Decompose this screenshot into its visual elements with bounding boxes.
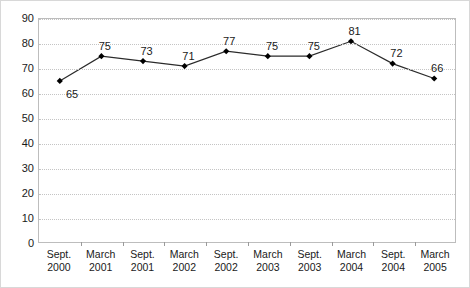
x-axis-tick-label: March 2001 [80, 248, 122, 274]
gridline [39, 119, 455, 120]
x-axis-tick-mark [81, 242, 82, 246]
y-axis: 9080706050403020100 [1, 1, 34, 287]
y-axis-tick-label: 60 [4, 88, 34, 99]
gridline [39, 219, 455, 220]
data-point-label: 77 [223, 36, 235, 47]
y-axis-tick-label: 90 [4, 13, 34, 24]
x-axis-tick-label: March 2005 [414, 248, 456, 274]
x-axis-tick-mark [415, 242, 416, 246]
line-chart: 9080706050403020100 Sept. 2000March 2001… [0, 0, 470, 288]
x-axis-tick-mark [290, 242, 291, 246]
y-axis-tick-label: 50 [4, 113, 34, 124]
gridline [39, 194, 455, 195]
data-point-marker [140, 58, 146, 64]
data-point-marker [390, 61, 396, 67]
data-point-label: 65 [66, 89, 78, 100]
y-axis-tick-label: 10 [4, 213, 34, 224]
data-point-marker [223, 48, 229, 54]
x-axis-tick-label: Sept. 2004 [372, 248, 414, 274]
x-axis-tick-label: Sept. 2002 [205, 248, 247, 274]
data-point-label: 75 [99, 41, 111, 52]
gridline [39, 19, 455, 20]
gridline [39, 144, 455, 145]
y-axis-tick-label: 30 [4, 163, 34, 174]
y-axis-tick-label: 70 [4, 63, 34, 74]
x-axis-tick-mark [206, 242, 207, 246]
data-point-marker [306, 53, 312, 59]
y-axis-tick-label: 20 [4, 188, 34, 199]
x-axis-tick-mark [373, 242, 374, 246]
y-axis-tick-label: 80 [4, 38, 34, 49]
x-axis-tick-label: March 2003 [247, 248, 289, 274]
gridline [39, 94, 455, 95]
data-point-label: 75 [266, 41, 278, 52]
y-axis-tick-label: 40 [4, 138, 34, 149]
data-point-label: 72 [390, 48, 402, 59]
x-axis-tick-mark [248, 242, 249, 246]
data-point-label: 73 [141, 46, 153, 57]
data-point-label: 66 [431, 63, 443, 74]
series-line [60, 41, 434, 81]
data-point-marker [98, 53, 104, 59]
x-axis-tick-mark [123, 242, 124, 246]
gridline [39, 69, 455, 70]
data-point-label: 81 [349, 26, 361, 37]
x-axis-tick-label: March 2004 [331, 248, 373, 274]
data-point-marker [265, 53, 271, 59]
x-axis-tick-label: Sept. 2000 [38, 248, 80, 274]
x-axis-tick-label: Sept. 2001 [122, 248, 164, 274]
x-axis-tick-label: Sept. 2003 [289, 248, 331, 274]
data-point-label: 71 [182, 51, 194, 62]
data-point-label: 75 [308, 41, 320, 52]
data-point-marker [431, 75, 437, 81]
x-axis-tick-mark [332, 242, 333, 246]
gridline [39, 169, 455, 170]
x-axis-tick-label: March 2002 [163, 248, 205, 274]
x-axis-tick-mark [164, 242, 165, 246]
data-point-marker [57, 78, 63, 84]
y-axis-tick-label: 0 [4, 238, 34, 249]
